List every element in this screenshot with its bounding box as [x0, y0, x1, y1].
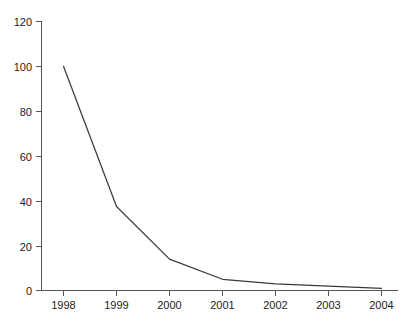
y-tick-label: 60: [20, 151, 32, 163]
line-chart: 120 100 80 60 40 20 0 1998 1999 2000 200…: [0, 0, 415, 324]
x-tick-label: 2000: [157, 299, 181, 311]
x-tick-label: 2002: [263, 299, 287, 311]
x-tick-label: 2003: [316, 299, 340, 311]
y-tick-label: 80: [20, 106, 32, 118]
y-tick-label: 20: [20, 241, 32, 253]
x-tick-label: 2001: [210, 299, 234, 311]
chart-canvas: 120 100 80 60 40 20 0 1998 1999 2000 200…: [0, 0, 415, 324]
chart-background: [0, 0, 415, 324]
x-tick-label: 1998: [51, 299, 75, 311]
y-tick-label: 100: [14, 61, 32, 73]
y-tick-label: 40: [20, 196, 32, 208]
x-tick-label: 2004: [369, 299, 393, 311]
x-tick-label: 1999: [104, 299, 128, 311]
y-tick-label: 0: [26, 285, 32, 297]
y-tick-label: 120: [14, 16, 32, 28]
